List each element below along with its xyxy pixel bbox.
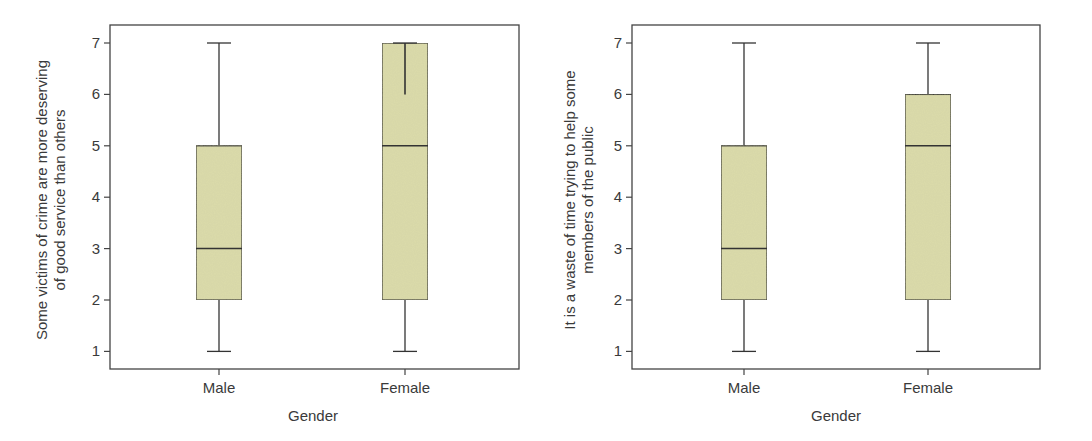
- boxplot-figure: 1234567 MaleFemale Some victims of crime…: [0, 0, 1092, 441]
- iqr-box: [196, 146, 242, 300]
- chart-waste-of-time: 1234567 MaleFemale It is a waste of time…: [561, 25, 1040, 424]
- x-tick-label-female: Female: [380, 379, 430, 396]
- y-axis-label-line1: Some victims of crime are more deserving: [33, 60, 50, 340]
- x-axis-label: Gender: [288, 407, 338, 424]
- y-tick-label: 2: [614, 291, 622, 308]
- box-female: [382, 43, 428, 351]
- x-tick-label-male: Male: [728, 379, 761, 396]
- y-axis-label-line1: It is a waste of time trying to help som…: [561, 70, 578, 329]
- plot-frame: [632, 25, 1040, 369]
- y-axis: 1234567: [614, 34, 632, 359]
- box-group: [721, 43, 951, 351]
- iqr-box: [905, 94, 951, 300]
- box-group: [196, 43, 428, 351]
- box-male: [721, 43, 767, 351]
- y-tick-label: 3: [614, 240, 622, 257]
- box-male: [196, 43, 242, 351]
- y-tick-label: 3: [92, 240, 100, 257]
- x-axis: MaleFemale: [728, 369, 953, 396]
- y-tick-label: 4: [92, 188, 100, 205]
- y-axis-label-line2: of good service than others: [51, 110, 68, 291]
- y-tick-label: 4: [614, 188, 622, 205]
- box-female: [905, 43, 951, 351]
- y-tick-label: 6: [92, 85, 100, 102]
- chart-victims-deserving: 1234567 MaleFemale Some victims of crime…: [33, 25, 519, 424]
- y-axis: 1234567: [92, 34, 110, 359]
- x-axis-label: Gender: [811, 407, 861, 424]
- plot-frame: [110, 25, 519, 369]
- y-tick-label: 2: [92, 291, 100, 308]
- x-tick-label-female: Female: [903, 379, 953, 396]
- y-tick-label: 1: [614, 342, 622, 359]
- iqr-box: [721, 146, 767, 300]
- y-axis-label-line2: members of the public: [579, 126, 596, 274]
- y-tick-label: 5: [614, 137, 622, 154]
- x-tick-label-male: Male: [203, 379, 236, 396]
- y-tick-label: 5: [92, 137, 100, 154]
- x-axis: MaleFemale: [203, 369, 430, 396]
- y-tick-label: 7: [92, 34, 100, 51]
- y-tick-label: 1: [92, 342, 100, 359]
- y-tick-label: 6: [614, 85, 622, 102]
- y-tick-label: 7: [614, 34, 622, 51]
